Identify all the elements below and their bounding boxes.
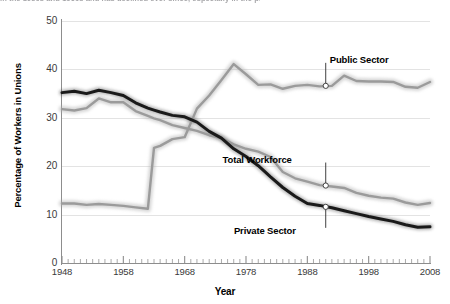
- series-label-total-workforce: Total Workforce: [223, 154, 292, 165]
- x-tick-label-2008: 2008: [408, 266, 450, 277]
- annotation-marker-total-workforce: [323, 183, 328, 188]
- x-axis-title: Year: [0, 286, 450, 297]
- x-tick-label-1998: 1998: [347, 266, 391, 277]
- annotation-marker-private-sector: [323, 204, 328, 209]
- union-membership-figure: in the 1950s and 1960s and has declined …: [0, 0, 450, 304]
- x-tick-label-1948: 1948: [40, 266, 84, 277]
- series-label-private-sector: Private Sector: [234, 225, 296, 236]
- annotation-marker-public-sector: [323, 83, 328, 88]
- x-tick-label-1978: 1978: [224, 266, 268, 277]
- annotation-layer: [0, 0, 450, 304]
- x-axis-tick-labels: 1948195819681978198819982008: [0, 266, 450, 282]
- x-tick-label-1958: 1958: [101, 266, 145, 277]
- x-tick-label-1988: 1988: [285, 266, 329, 277]
- series-label-public-sector: Public Sector: [330, 54, 389, 65]
- x-tick-label-1968: 1968: [163, 266, 207, 277]
